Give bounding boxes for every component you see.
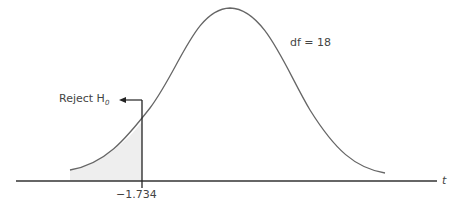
reject-text: Reject H (59, 92, 105, 105)
h-subscript: 0 (105, 99, 109, 107)
reject-h0-label: Reject H0 (59, 92, 109, 107)
arrow-left-icon (119, 97, 126, 103)
critical-value-label: −1.734 (116, 188, 157, 201)
t-distribution-chart: Reject H0 df = 18 −1.734 t (0, 0, 460, 211)
x-axis-label: t (442, 174, 446, 187)
df-annotation: df = 18 (290, 36, 331, 49)
